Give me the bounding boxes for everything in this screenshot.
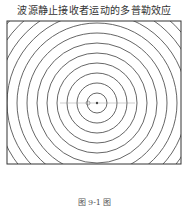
wavefront-ring — [0, 0, 189, 214]
wavefront-rings — [0, 0, 189, 214]
wavefront-ring — [0, 0, 189, 213]
wavefront-ring — [0, 0, 189, 214]
wavefront-ring — [0, 0, 189, 214]
figure-caption: 图 9-1 图 — [0, 196, 189, 207]
source-dot — [96, 102, 98, 104]
doppler-wavefront-diagram — [0, 0, 189, 214]
